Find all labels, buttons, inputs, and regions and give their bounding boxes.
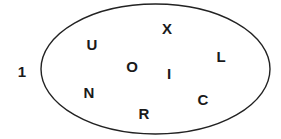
set-element-l: L [216,49,225,64]
set-element-o: O [126,59,138,74]
set-element-i: I [167,66,171,81]
set-element-c: C [198,92,209,107]
set-element-r: R [139,106,150,121]
outside-element-1: 1 [18,64,26,79]
set-element-n: N [84,85,95,100]
set-element-x: X [162,21,172,36]
venn-set-diagram: 1 U X L O I N C R [0,0,281,139]
set-element-u: U [87,37,98,52]
set-boundary-ellipse [41,4,270,134]
